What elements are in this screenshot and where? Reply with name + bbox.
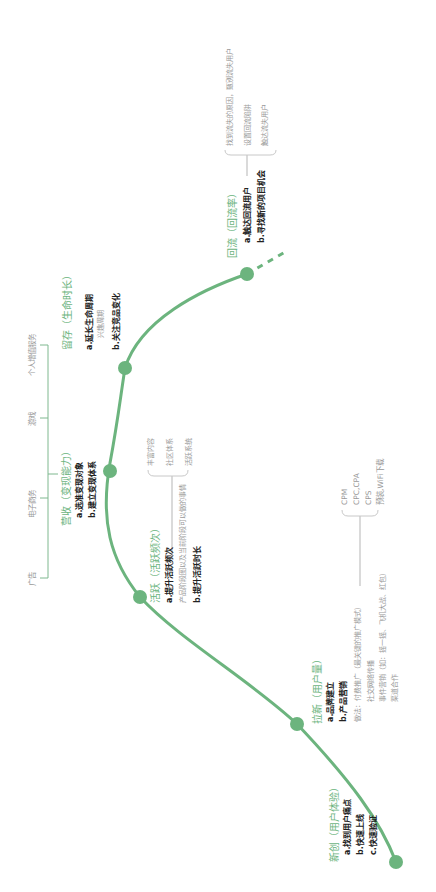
- laxin-method-item-3: 渠道合作: [392, 674, 399, 702]
- channel-ecommerce: 电子商务: [29, 490, 37, 518]
- stage-title-huoyue: 活跃（活跃频次）: [151, 523, 161, 603]
- channel-ad: 广告: [29, 572, 37, 586]
- huoyue-method-2: 社区体系: [167, 438, 174, 466]
- huoyue-point-a: a.提升活跃频次: [166, 547, 174, 603]
- stage-title-yingshou: 营收（变现能力）: [62, 446, 72, 526]
- huoyue-method-1: 丰富内容: [148, 438, 155, 466]
- stage-title-xinchuang: 新创（用户体验）: [330, 782, 340, 862]
- huiliu-point-a: a.触达回流用户: [244, 187, 252, 243]
- huiliu-method-1: 找到流失的原因，甄别流失用户: [227, 48, 234, 146]
- yingshou-point-a: a.选准变现对象: [76, 462, 84, 518]
- lifecycle-mindmap: 新创（用户体验） a.找到用户痛点 b.快速上线 c.快速验证 拉新（用户量） …: [0, 0, 436, 892]
- paid-type-cpc-cpa: CPC,CPA: [353, 473, 361, 505]
- laxin-method-item-1: 社交网络传播: [368, 660, 375, 702]
- huoyue-point-b: b.提升活跃时长: [194, 546, 202, 603]
- stage-title-liucun: 留存（生命时长）: [63, 270, 73, 350]
- xinchuang-point-c: c.快速验证: [370, 815, 378, 855]
- xinchuang-point-b: b.快速上线: [357, 814, 365, 855]
- paid-type-preinstall: 预装,WiFi下载: [377, 459, 385, 505]
- huiliu-bracket: [225, 150, 276, 155]
- huiliu-point-b: b.寻找新的项目机会: [258, 170, 266, 243]
- node-huoyue: [133, 590, 147, 604]
- yingshou-point-b: b.建立变现体系: [89, 461, 97, 518]
- node-huiliu: [240, 267, 254, 281]
- channel-game: 游戏: [29, 412, 37, 426]
- huoyue-note: 产品阶段图以及当前阶段可以做的事情: [180, 484, 187, 603]
- huiliu-method-2: 设置回流陷阱: [245, 104, 252, 146]
- paid-type-cps: CPS: [365, 490, 373, 505]
- xinchuang-point-a: a.找到用户痛点: [344, 799, 352, 855]
- node-yingshou: [103, 464, 117, 478]
- node-xinchuang: [389, 855, 403, 869]
- laxin-point-a: a.品牌建立: [327, 682, 335, 722]
- paid-type-cpm: CPM: [341, 489, 349, 505]
- stage-title-huiliu: 回流（回流率）: [228, 188, 238, 258]
- node-liucun: [118, 361, 132, 375]
- liucun-point-a: a.延长生命周期: [86, 294, 94, 350]
- huoyue-method-3: 活跃系统: [186, 438, 193, 466]
- laxin-point-b: b.产品营销: [340, 681, 348, 722]
- node-laxin: [290, 717, 304, 731]
- liucun-note: 兴趣周期: [98, 310, 105, 338]
- laxin-method: 做法：付费推广（最关键的推广模式）: [355, 603, 362, 722]
- huiliu-method-3: 触达流失用户: [262, 104, 269, 146]
- huoyue-bracket: [148, 470, 188, 476]
- laxin-bracket: [342, 510, 378, 516]
- stage-title-laxin: 拉新（用户量）: [313, 654, 323, 724]
- liucun-point-b: b.关注竞品变化: [113, 293, 121, 350]
- laxin-method-item-2: 事件营销（如：摇一摇、飞机大战、红包）: [380, 569, 387, 702]
- channel-value-added-service: 个人增值服务: [29, 334, 37, 376]
